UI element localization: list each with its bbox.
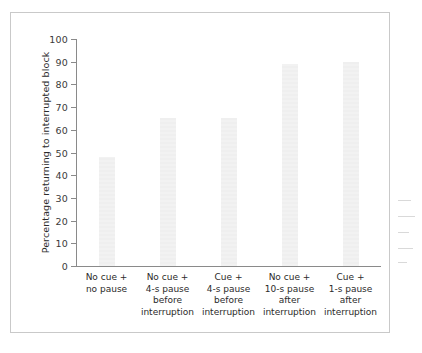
- x-axis-label-line: after: [315, 295, 387, 307]
- y-axis-tick: [71, 198, 76, 199]
- y-axis-title-text: Percentage returning to interrupted bloc…: [41, 52, 52, 254]
- x-axis-line: [76, 266, 381, 267]
- plot-area: 0102030405060708090100: [76, 39, 386, 266]
- y-axis-tick: [71, 84, 76, 85]
- bar: [343, 62, 359, 266]
- x-axis-label-line: 1-s pause: [315, 284, 387, 296]
- y-axis-tick-label: 100: [49, 34, 68, 45]
- x-axis-label: Cue +1-s pauseafterinterruption: [315, 272, 387, 318]
- x-axis-label-line: interruption: [315, 307, 387, 319]
- y-axis-tick-label: 60: [56, 124, 69, 135]
- y-axis-tick: [71, 107, 76, 108]
- y-axis-tick: [71, 266, 76, 267]
- x-axis-label-line: Cue +: [315, 272, 387, 284]
- y-axis-tick-label: 40: [56, 170, 69, 181]
- y-axis-tick-label: 20: [56, 215, 69, 226]
- y-axis-tick-label: 70: [56, 102, 69, 113]
- y-axis-line: [76, 39, 77, 266]
- y-axis-tick-label: 50: [56, 147, 69, 158]
- y-axis-tick: [71, 39, 76, 40]
- y-axis-tick: [71, 175, 76, 176]
- y-axis-tick-label: 0: [62, 261, 68, 272]
- figure-frame: Percentage returning to interrupted bloc…: [10, 12, 390, 333]
- y-axis-tick: [71, 243, 76, 244]
- y-axis-tick-label: 90: [56, 56, 69, 67]
- y-axis-tick: [71, 153, 76, 154]
- y-axis-title: Percentage returning to interrupted bloc…: [39, 39, 53, 266]
- y-axis-tick-label: 80: [56, 79, 69, 90]
- y-axis-tick: [71, 130, 76, 131]
- bar: [99, 157, 115, 266]
- bar: [221, 118, 237, 266]
- page-margin-marks: [398, 196, 422, 266]
- x-axis-labels: No cue +no pauseNo cue +4-s pausebeforei…: [76, 272, 386, 334]
- y-axis-tick: [71, 62, 76, 63]
- y-axis-tick-label: 30: [56, 192, 69, 203]
- y-axis-tick: [71, 221, 76, 222]
- bar: [160, 118, 176, 266]
- bar: [282, 64, 298, 266]
- y-axis-tick-label: 10: [56, 238, 69, 249]
